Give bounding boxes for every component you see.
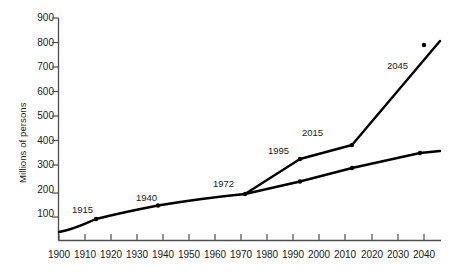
data-point-2015-high <box>350 143 354 147</box>
series-high-projection-line <box>59 41 440 232</box>
y-tick-marks <box>52 18 59 217</box>
data-point-1972 <box>243 192 247 196</box>
data-point-1995-high <box>298 157 302 161</box>
data-point-markers <box>94 43 426 221</box>
chart-plot-area <box>0 0 456 273</box>
data-point-2040-low <box>418 151 422 155</box>
data-point-2015-low <box>350 166 354 170</box>
population-line-chart: Millions of persons 900 800 700 600 500 … <box>0 0 456 273</box>
x-tick-marks <box>59 234 424 241</box>
data-point-1915 <box>94 217 98 221</box>
data-point-2045-high <box>422 43 426 47</box>
data-point-1995-low <box>298 179 302 183</box>
data-point-1940 <box>156 203 160 207</box>
series-low-projection-line <box>245 151 440 194</box>
